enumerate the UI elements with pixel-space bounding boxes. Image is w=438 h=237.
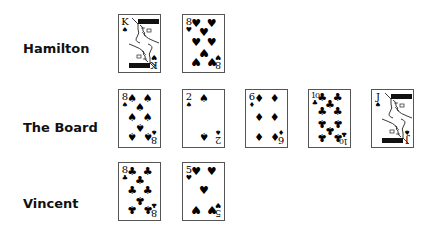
diamond-pip-icon: ♦: [253, 93, 265, 104]
heart-pip-icon: ♥: [190, 204, 202, 215]
club-pip-icon: ♣: [332, 106, 344, 117]
heart-pip-icon: ♥: [190, 166, 202, 177]
card-rank: 2: [213, 135, 223, 145]
spade-pip-icon: ♠: [142, 131, 154, 142]
club-pip-icon: ♣: [126, 204, 138, 215]
card-8-of-spades: 8♠8♠♠♠♠♠♠♠♠♠: [118, 89, 161, 148]
card-6-of-diamonds: 6♦6♦♦♦♦♦♦♦: [245, 89, 288, 148]
spade-pip-icon: ♠: [198, 131, 210, 142]
diamond-pip-icon: ♦: [269, 112, 281, 123]
card-8-of-clubs: 8♣8♣♣♣♣♣♣♣♣♣: [118, 162, 161, 221]
heart-pip-icon: ♥: [206, 56, 218, 67]
card-corner-index: 2♠: [213, 128, 223, 145]
card-j-of-spades: J♠J♠: [371, 89, 414, 148]
club-pip-icon: ♣: [142, 204, 154, 215]
spade-pip-icon: ♠: [198, 93, 210, 104]
heart-pip-icon: ♥: [190, 56, 202, 67]
spade-icon: ♠: [213, 128, 223, 135]
card-5-of-hearts: 5♥5♥♥♥♥♥♥: [182, 162, 225, 221]
vincent-label: Vincent: [23, 196, 79, 211]
diamond-pip-icon: ♦: [253, 112, 265, 123]
club-pip-icon: ♣: [316, 106, 328, 117]
hamilton-label: Hamilton: [23, 41, 90, 56]
card-10-of-clubs: 10♣10♣♣♣♣♣♣♣♣♣♣♣: [308, 89, 351, 148]
jack-portrait-icon: [381, 92, 413, 145]
club-pip-icon: ♣: [332, 132, 344, 143]
heart-pip-icon: ♥: [206, 204, 218, 215]
diamond-pip-icon: ♦: [253, 131, 265, 142]
heart-pip-icon: ♥: [198, 185, 210, 196]
king-portrait-icon: [128, 17, 160, 70]
card-corner-index: 2♠: [184, 92, 194, 109]
diamond-pip-icon: ♦: [269, 93, 281, 104]
card-8-of-hearts: 8♥8♥♥♥♥♥♥♥♥♥: [182, 14, 225, 73]
card-2-of-spades: 2♠2♠♠♠: [182, 89, 225, 148]
spade-icon: ♠: [184, 102, 194, 109]
club-pip-icon: ♣: [316, 132, 328, 143]
board-label: The Board: [23, 120, 98, 135]
heart-pip-icon: ♥: [206, 166, 218, 177]
spade-pip-icon: ♠: [126, 131, 138, 142]
card-k-of-spades: K♠K♥: [118, 14, 161, 73]
diamond-pip-icon: ♦: [269, 131, 281, 142]
